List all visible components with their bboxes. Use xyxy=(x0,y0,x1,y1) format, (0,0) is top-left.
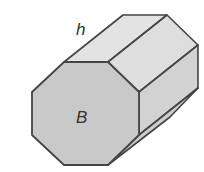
base-label: B xyxy=(76,108,87,127)
octagonal-prism-figure: B h xyxy=(0,0,204,172)
prism-diagram: B h xyxy=(0,0,204,172)
height-label: h xyxy=(76,20,85,39)
